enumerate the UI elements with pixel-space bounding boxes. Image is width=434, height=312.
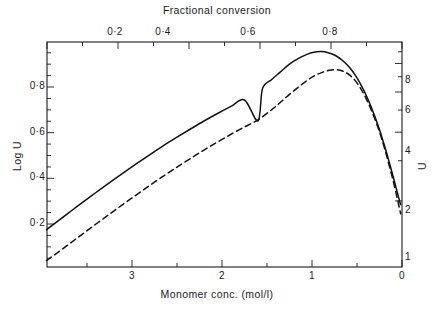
tick-label-bottom-1: 2 [202, 270, 242, 281]
curve-dashed-curve [47, 70, 401, 261]
figure-container: Fractional conversion Monomer conc. (mol… [0, 0, 434, 312]
tick-label-top-2: 0·6 [228, 26, 268, 37]
tick-label-left-2: 0·4 [5, 171, 45, 182]
tick-label-top-3: 0·8 [310, 26, 350, 37]
tick-label-right-1: 6 [405, 104, 434, 115]
tick-label-right-4: 1 [405, 251, 434, 262]
tick-label-left-1: 0·6 [5, 126, 45, 137]
tick-label-right-2: 4 [405, 145, 434, 156]
plot-frame [47, 42, 402, 267]
tick-label-left-0: 0·8 [5, 80, 45, 91]
tick-label-right-3: 2 [405, 204, 434, 215]
tick-label-bottom-2: 1 [292, 270, 332, 281]
tick-label-top-0: 0·2 [95, 26, 135, 37]
axis-ticks [47, 42, 402, 267]
tick-label-right-0: 8 [405, 74, 434, 85]
tick-label-top-1: 0·4 [143, 26, 183, 37]
tick-label-left-3: 0·2 [5, 217, 45, 228]
tick-label-bottom-3: 0 [382, 270, 422, 281]
data-curves [47, 52, 401, 261]
curve-solid-curve [47, 52, 401, 230]
plot-frame-rect [47, 42, 402, 267]
tick-label-bottom-0: 3 [112, 270, 152, 281]
plot-area [0, 0, 434, 312]
